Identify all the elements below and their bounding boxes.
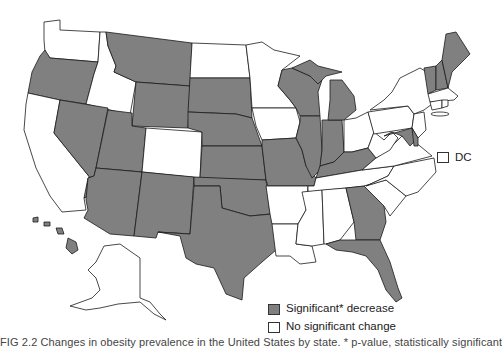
state-ct bbox=[430, 100, 442, 110]
state-nm bbox=[134, 172, 194, 238]
state-wy bbox=[132, 82, 190, 128]
state-hi-maui bbox=[56, 228, 64, 234]
figure-caption: FIG 2.2 Changes in obesity prevalence in… bbox=[0, 336, 502, 348]
state-co bbox=[142, 128, 202, 178]
legend-swatch-decrease bbox=[268, 304, 280, 315]
legend-label-no-change: No significant change bbox=[286, 320, 396, 332]
state-hi-kauai bbox=[33, 217, 38, 222]
state-me bbox=[442, 32, 470, 88]
state-hi-oahu bbox=[44, 222, 50, 226]
state-ia bbox=[252, 108, 300, 140]
dc-swatch bbox=[437, 152, 449, 163]
long-island bbox=[431, 112, 449, 116]
state-hi-big bbox=[66, 238, 78, 254]
state-ak bbox=[70, 244, 166, 320]
state-nd bbox=[190, 43, 250, 78]
legend-label-decrease: Significant* decrease bbox=[286, 302, 394, 314]
legend-swatch-no-change bbox=[268, 322, 280, 333]
state-ri bbox=[442, 100, 448, 108]
state-fl bbox=[326, 240, 402, 302]
dc-label: DC bbox=[455, 151, 472, 163]
state-wa bbox=[44, 20, 100, 62]
state-az bbox=[84, 168, 142, 236]
state-ks bbox=[200, 146, 266, 180]
state-mi-lower bbox=[328, 80, 356, 120]
state-ny bbox=[370, 68, 432, 114]
